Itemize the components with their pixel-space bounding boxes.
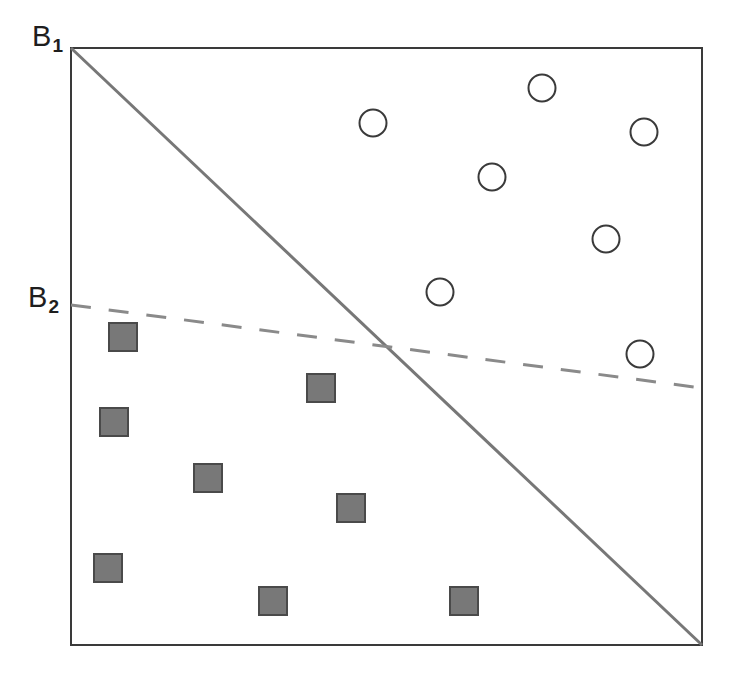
boundary-label-b2: B2 [28,283,58,312]
boundary-label-b2-base: B [28,281,48,313]
data-point-square [94,554,122,582]
data-point-square [450,587,478,615]
data-point-square [109,323,137,351]
scatter-plot-canvas [0,0,731,686]
square-marker-group [94,323,478,615]
data-point-square [100,408,128,436]
data-point-circle [427,279,454,306]
data-point-circle [529,75,556,102]
data-point-circle [593,226,620,253]
data-point-circle [479,164,506,191]
boundary-label-b1: B1 [32,22,62,51]
figure-root: B1 B2 [0,0,731,686]
data-point-square [194,464,222,492]
boundary-label-b1-subscript: 1 [53,35,64,56]
decision-boundary-b2 [71,305,702,388]
boundary-label-b1-base: B [32,20,52,52]
data-point-square [307,374,335,402]
data-point-square [259,587,287,615]
data-point-circle [631,119,658,146]
data-point-circle [360,110,387,137]
data-point-square [337,494,365,522]
boundary-label-b2-subscript: 2 [49,296,60,317]
data-point-circle [627,341,654,368]
circle-marker-group [360,75,658,368]
